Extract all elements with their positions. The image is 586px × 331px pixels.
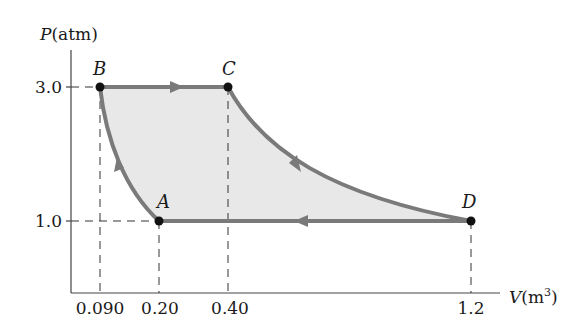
x-tick-040: 0.40 <box>211 298 249 318</box>
point-B <box>96 83 105 92</box>
x-tick-020: 0.20 <box>141 298 179 318</box>
label-D: D <box>461 191 477 212</box>
x-tick-12: 1.2 <box>457 298 484 318</box>
label-A: A <box>155 191 170 212</box>
y-tick-3: 3.0 <box>35 77 62 97</box>
x-axis-label: V(m3) <box>509 286 558 307</box>
x-tick-0090: 0.090 <box>76 298 125 318</box>
label-B: B <box>92 58 106 79</box>
point-C <box>224 83 233 92</box>
label-C: C <box>222 58 236 79</box>
pv-diagram: A B C D P(atm) 3.0 1.0 0.090 0.20 0.40 1… <box>0 0 586 331</box>
y-axis-label: P(atm) <box>39 24 98 44</box>
point-D <box>467 217 476 226</box>
point-A <box>155 217 164 226</box>
y-tick-1: 1.0 <box>35 211 62 231</box>
